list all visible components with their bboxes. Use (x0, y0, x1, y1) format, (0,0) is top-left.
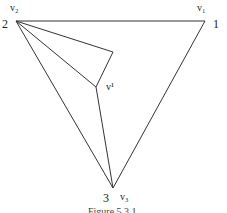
triangle-diagram: v₂ 2 v₁ 1 v₃ 3 v¹ Figure 5.3.1 (0, 0, 227, 213)
edges (16, 21, 205, 188)
diagram-canvas (0, 0, 227, 213)
vertex-label-vprime: v¹ (106, 82, 114, 92)
vertex-label-v1: v₁ (197, 3, 206, 13)
figure-caption: Figure 5.3.1 (88, 206, 137, 213)
edge-v2-a (16, 21, 113, 52)
vertex-number-3: 3 (103, 192, 109, 204)
edge-v1-v3 (113, 21, 205, 188)
vertex-number-1: 1 (213, 18, 219, 30)
vertex-number-2: 2 (2, 18, 8, 30)
vertex-label-v3: v₃ (120, 192, 129, 202)
edge-v2-vprime (16, 21, 96, 87)
vertex-label-v2: v₂ (10, 3, 19, 13)
